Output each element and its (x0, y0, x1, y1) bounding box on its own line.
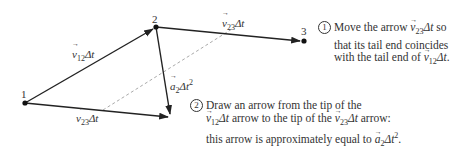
step-2-number-badge: 2 (190, 99, 203, 112)
point-3-label: 3 (301, 25, 307, 37)
vector-v23-label: v→23Δt (222, 18, 244, 32)
step-1-note: 1Move the arrow v→23Δt so that its tail … (318, 21, 450, 69)
vector-a2-label: a→2Δt2 (170, 79, 193, 95)
point-2-dot (153, 24, 158, 29)
vector-a2-arrow (156, 27, 170, 114)
vector-v23-copy-label: v→23Δt (76, 113, 98, 127)
point-1-dot (22, 100, 27, 105)
step-1-number-badge: 1 (318, 21, 331, 34)
vector-v12-label: v→12Δt (72, 49, 94, 63)
point-2-label: 2 (152, 13, 158, 25)
step-2-note: 2Draw an arrow from the tip of the v→12Δ… (190, 99, 401, 146)
point-3-dot (301, 38, 306, 43)
point-1-label: 1 (21, 88, 27, 100)
vector-v12-arrow (25, 29, 153, 103)
